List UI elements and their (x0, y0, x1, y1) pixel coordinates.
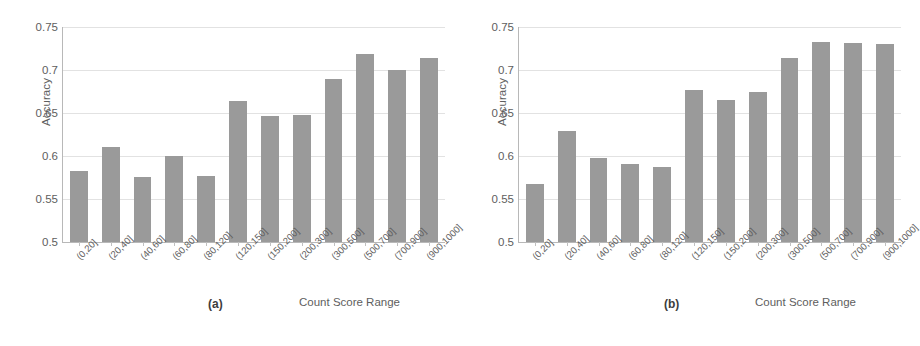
bar[interactable] (685, 90, 703, 242)
x-tick-mark (111, 242, 112, 246)
bar-cell[interactable] (519, 27, 551, 242)
x-tick-mark (270, 242, 271, 246)
bar[interactable] (325, 79, 343, 242)
bar[interactable] (653, 167, 671, 242)
x-tick-mark (238, 242, 239, 246)
bar[interactable] (356, 54, 374, 242)
bar[interactable] (812, 42, 830, 242)
y-tick-label: 0.6 (480, 150, 514, 162)
x-tick-mark (429, 242, 430, 246)
x-tick-mark (630, 242, 631, 246)
y-tick-label: 0.5 (24, 236, 58, 248)
x-tick-mark (758, 242, 759, 246)
x-tick-mark (535, 242, 536, 246)
bar-cell[interactable] (254, 27, 286, 242)
bar[interactable] (526, 184, 544, 242)
x-tick-mark (694, 242, 695, 246)
panel-caption-b: (b) (664, 297, 679, 311)
bar-series-a (63, 27, 445, 242)
bar[interactable] (70, 171, 88, 242)
bar-cell[interactable] (774, 27, 806, 242)
plot-area-a (62, 27, 445, 243)
x-tick-mark (821, 242, 822, 246)
y-tick-label: 0.55 (480, 193, 514, 205)
x-tick-mark (302, 242, 303, 246)
x-tick-mark (599, 242, 600, 246)
bar-cell[interactable] (710, 27, 742, 242)
x-tick-mark (79, 242, 80, 246)
bar-cell[interactable] (286, 27, 318, 242)
x-tick-mark (206, 242, 207, 246)
bar[interactable] (197, 176, 215, 242)
x-axis-title-b: Count Score Range (755, 296, 856, 308)
bar-cell[interactable] (678, 27, 710, 242)
bar-cell[interactable] (318, 27, 350, 242)
plot-area-b (518, 27, 901, 243)
x-tick-mark (790, 242, 791, 246)
x-tick-mark (885, 242, 886, 246)
bar[interactable] (717, 100, 735, 242)
bar-cell[interactable] (413, 27, 445, 242)
bar[interactable] (621, 164, 639, 242)
y-tick-label: 0.5 (480, 236, 514, 248)
bar[interactable] (749, 92, 767, 242)
bar[interactable] (293, 115, 311, 242)
bar-cell[interactable] (222, 27, 254, 242)
y-tick-label: 0.55 (24, 193, 58, 205)
bar[interactable] (102, 147, 120, 242)
x-axis-title-a: Count Score Range (299, 296, 400, 308)
bar-cell[interactable] (837, 27, 869, 242)
bar-cell[interactable] (646, 27, 678, 242)
x-tick-mark (143, 242, 144, 246)
y-tick-label: 0.65 (24, 107, 58, 119)
bar-cell[interactable] (127, 27, 159, 242)
bar[interactable] (420, 58, 438, 242)
bar[interactable] (590, 158, 608, 242)
bar-cell[interactable] (63, 27, 95, 242)
bar-cell[interactable] (381, 27, 413, 242)
bar-cell[interactable] (869, 27, 901, 242)
x-tick-mark (726, 242, 727, 246)
bar-cell[interactable] (583, 27, 615, 242)
bar[interactable] (876, 44, 894, 242)
panel-caption-a: (a) (208, 297, 223, 311)
y-tick-label: 0.7 (480, 64, 514, 76)
y-tick-label: 0.65 (480, 107, 514, 119)
y-tick-label: 0.75 (24, 21, 58, 33)
bar[interactable] (558, 131, 576, 242)
bar-cell[interactable] (190, 27, 222, 242)
y-axis-tick-labels-b: 0.50.550.60.650.70.75 (478, 0, 514, 346)
y-axis-tick-labels-a: 0.50.550.60.650.70.75 (22, 0, 58, 346)
bar-cell[interactable] (805, 27, 837, 242)
bar[interactable] (388, 70, 406, 242)
x-tick-mark (334, 242, 335, 246)
y-tick-label: 0.7 (24, 64, 58, 76)
bar[interactable] (134, 177, 152, 242)
y-tick-label: 0.75 (480, 21, 514, 33)
bar[interactable] (781, 58, 799, 242)
bar[interactable] (844, 43, 862, 242)
chart-panel-a: Accuracy 0.50.550.60.650.70.75 (0,20](20… (0, 0, 456, 346)
bar[interactable] (229, 101, 247, 242)
bar-cell[interactable] (614, 27, 646, 242)
x-tick-mark (853, 242, 854, 246)
bar[interactable] (261, 116, 279, 242)
x-tick-mark (662, 242, 663, 246)
bar-cell[interactable] (551, 27, 583, 242)
bar[interactable] (165, 156, 183, 242)
y-tick-label: 0.6 (24, 150, 58, 162)
x-tick-mark (397, 242, 398, 246)
bar-cell[interactable] (95, 27, 127, 242)
bar-cell[interactable] (742, 27, 774, 242)
bar-cell[interactable] (349, 27, 381, 242)
bar-series-b (519, 27, 901, 242)
bar-cell[interactable] (158, 27, 190, 242)
x-tick-mark (567, 242, 568, 246)
x-tick-mark (365, 242, 366, 246)
x-tick-mark (174, 242, 175, 246)
chart-panel-b: Accuracy 0.50.550.60.650.70.75 (0,20](20… (456, 0, 913, 346)
